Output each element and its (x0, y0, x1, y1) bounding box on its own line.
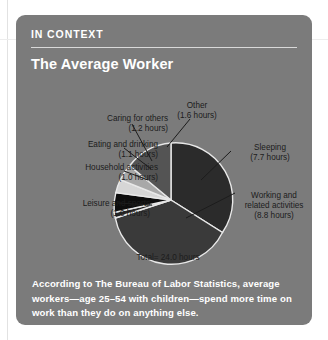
label-working-value: (8.8 hours) (238, 211, 310, 221)
label-household-value: (1.0 hours) (16, 173, 158, 183)
card-caption: According to The Bureau of Labor Statist… (32, 277, 298, 321)
label-sleeping: Sleeping (7.7 hours) (234, 143, 306, 163)
label-caring-for-others: Caring for others (1.2 hours) (60, 114, 168, 134)
label-caring-name: Caring for others (60, 114, 168, 124)
label-working-name2: related activities (238, 201, 310, 211)
card-kicker: IN CONTEXT (31, 28, 297, 41)
label-leisure-value: (1.0 hours) (22, 209, 150, 219)
label-household-name: Household activities (16, 163, 158, 173)
label-eating-name: Eating and drinking (34, 140, 158, 150)
label-household-activities: Household activities (1.0 hours) (16, 163, 158, 183)
pie-chart: Caring for others (1.2 hours) Other (1.6… (16, 87, 312, 267)
card-header: IN CONTEXT The Average Worker (31, 28, 297, 73)
in-context-card: IN CONTEXT The Average Worker (16, 15, 312, 325)
label-sleeping-value: (7.7 hours) (234, 153, 306, 163)
label-total: Total= 24.0 hours (116, 253, 220, 263)
label-eating-value: (1.1 hours) (34, 150, 158, 160)
page-margin-rule (7, 0, 8, 340)
page-root: IN CONTEXT The Average Worker (0, 0, 328, 340)
label-sleeping-name: Sleeping (234, 143, 306, 153)
label-caring-value: (1.2 hours) (60, 124, 168, 134)
label-leisure-and-sports: Leisure and sports (1.0 hours) (22, 199, 150, 219)
label-working-and-related-activities: Working and related activities (8.8 hour… (238, 191, 310, 222)
kicker-divider (31, 47, 297, 48)
label-leisure-name: Leisure and sports (22, 199, 150, 209)
card-title: The Average Worker (31, 56, 297, 73)
label-eating-and-drinking: Eating and drinking (1.1 hours) (34, 140, 158, 160)
label-other-name: Other (166, 101, 228, 111)
label-other: Other (1.6 hours) (166, 101, 228, 121)
label-other-value: (1.6 hours) (166, 111, 228, 121)
label-working-name: Working and (238, 191, 310, 201)
